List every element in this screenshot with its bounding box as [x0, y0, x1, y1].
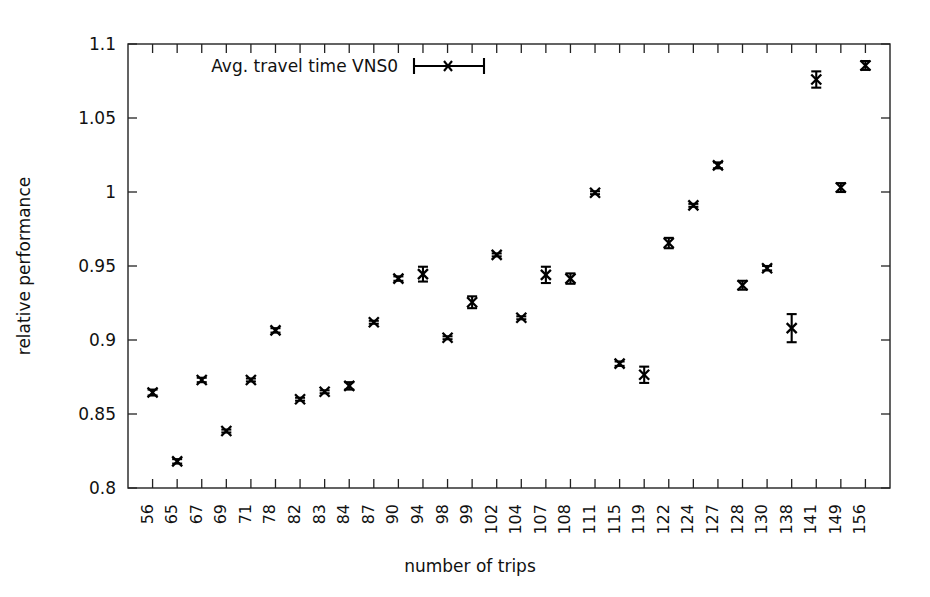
y-axis-label: relative performance [14, 177, 34, 355]
x-tick-label: 83 [310, 504, 329, 524]
data-point-group [148, 60, 871, 466]
y-tick-label: 0.9 [89, 330, 116, 350]
data-point [565, 273, 575, 283]
data-point [246, 375, 256, 385]
y-tick-label: 1.1 [89, 34, 116, 54]
x-tick-label: 130 [752, 504, 771, 535]
data-point [344, 381, 354, 391]
x-tick-label: 84 [334, 504, 353, 524]
x-tick-label: 78 [260, 504, 279, 524]
x-tick-label: 67 [187, 504, 206, 524]
legend-entry-label: Avg. travel time VNS0 [211, 56, 398, 76]
x-tick-label: 124 [678, 504, 697, 535]
y-tick-marks [128, 44, 890, 488]
data-point [688, 200, 698, 210]
x-tick-labels: 5665676971788283848790949899102104107108… [138, 504, 870, 535]
x-tick-label: 156 [850, 504, 869, 535]
data-point [836, 183, 846, 193]
x-tick-label: 138 [777, 504, 796, 535]
y-tick-label: 0.8 [89, 478, 116, 498]
data-point [762, 263, 772, 273]
data-point [393, 274, 403, 284]
x-tick-label: 65 [162, 504, 181, 524]
data-point [811, 71, 821, 87]
x-tick-label: 141 [801, 504, 820, 535]
x-tick-label: 82 [285, 504, 304, 524]
y-tick-labels: 0.80.850.90.9511.051.1 [78, 34, 116, 498]
legend-marker-error-bar-icon [414, 58, 484, 74]
y-tick-label: 0.85 [78, 404, 116, 424]
data-point [615, 359, 625, 369]
data-point [418, 267, 428, 282]
x-tick-label: 127 [703, 504, 722, 535]
data-point [295, 394, 305, 404]
x-tick-label: 71 [236, 504, 255, 524]
y-tick-label: 1 [105, 182, 116, 202]
x-tick-label: 87 [359, 504, 378, 524]
x-tick-label: 56 [138, 504, 157, 524]
data-point [860, 60, 870, 70]
x-tick-marks [153, 44, 866, 488]
legend: Avg. travel time VNS0 [211, 56, 484, 76]
data-point [590, 188, 600, 198]
x-tick-label: 107 [531, 504, 550, 535]
data-point [467, 296, 477, 308]
x-tick-label: 90 [383, 504, 402, 524]
x-tick-label: 104 [506, 504, 525, 535]
chart-figure: 0.80.850.90.9511.051.1 56656769717882838… [0, 0, 930, 597]
y-tick-label: 0.95 [78, 256, 116, 276]
x-tick-label: 99 [457, 504, 476, 524]
data-point [148, 388, 158, 398]
data-point [713, 160, 723, 170]
data-point [738, 280, 748, 290]
data-point [787, 314, 797, 342]
x-tick-label: 128 [728, 504, 747, 535]
scatter-error-bar-chart: 0.80.850.90.9511.051.1 56656769717882838… [0, 0, 930, 597]
data-point [197, 375, 207, 385]
data-point [320, 387, 330, 397]
data-point [443, 333, 453, 343]
x-tick-label: 69 [211, 504, 230, 524]
data-point [639, 367, 649, 383]
x-tick-label: 98 [433, 504, 452, 524]
x-tick-label: 149 [826, 504, 845, 535]
x-axis-label: number of trips [404, 556, 536, 576]
y-tick-label: 1.05 [78, 108, 116, 128]
x-tick-label: 111 [580, 504, 599, 535]
data-point [664, 238, 674, 248]
data-point [516, 313, 526, 323]
x-tick-label: 122 [654, 504, 673, 535]
x-tick-label: 102 [482, 504, 501, 535]
x-tick-label: 115 [605, 504, 624, 535]
data-point [492, 250, 502, 260]
plot-frame [128, 44, 890, 488]
data-point [172, 456, 182, 466]
data-point [369, 317, 379, 327]
data-point [541, 267, 551, 283]
data-point [221, 426, 231, 436]
x-tick-label: 94 [408, 504, 427, 524]
x-tick-label: 108 [555, 504, 574, 535]
data-point [270, 325, 280, 335]
x-tick-label: 119 [629, 504, 648, 535]
